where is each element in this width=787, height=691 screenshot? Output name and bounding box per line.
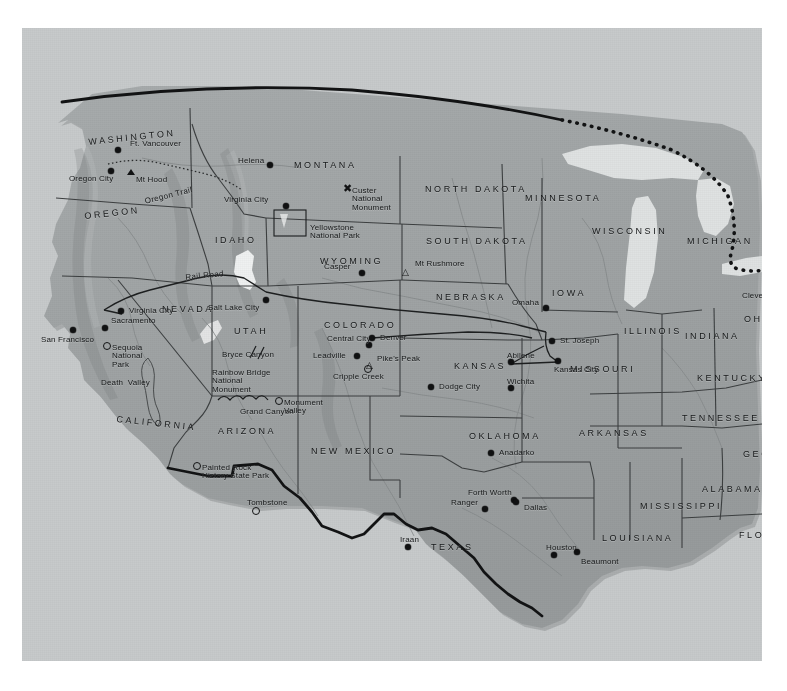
city-label-leadville: Leadville — [313, 352, 346, 360]
feature-label-monument: Monument Valley — [284, 399, 323, 416]
city-label-houston: Houston — [546, 544, 577, 552]
city-label-central-city: Central City — [327, 335, 371, 343]
city-label-sacramento: Sacramento — [111, 317, 156, 325]
city-dot-marker — [267, 162, 273, 168]
city-marker[interactable] — [513, 499, 519, 505]
state-label-michigan: MICHIGAN — [687, 237, 753, 246]
city-marker[interactable] — [549, 338, 555, 344]
feature-marker[interactable]: ✖ — [343, 185, 352, 193]
city-marker[interactable] — [482, 506, 488, 512]
city-label-iraan: Iraan — [400, 536, 419, 544]
feature-marker[interactable] — [193, 462, 201, 470]
state-label-kentucky: KENTUCKY — [697, 374, 762, 383]
city-label-wichita: Wichita — [507, 378, 534, 386]
state-label-oklahoma: OKLAHOMA — [469, 432, 541, 441]
city-dot-marker — [543, 305, 549, 311]
open-circle-marker — [275, 397, 283, 405]
city-marker[interactable] — [543, 305, 549, 311]
city-marker[interactable] — [488, 450, 494, 456]
city-marker[interactable] — [127, 169, 135, 175]
city-dot-marker — [405, 544, 411, 550]
city-label-omaha: Omaha — [512, 299, 539, 307]
city-dot-marker — [428, 384, 434, 390]
city-marker[interactable] — [369, 335, 375, 341]
city-label-mt-rushmore: Mt Rushmore — [415, 260, 465, 268]
city-dot-marker — [118, 308, 124, 314]
city-marker[interactable] — [366, 354, 373, 360]
city-label-abilene: Abilene — [507, 352, 535, 360]
feature-label-death-valley: Death Valley — [101, 379, 150, 387]
state-label-mississippi: MISSISSIPPI — [640, 502, 722, 511]
open-circle-marker — [103, 342, 111, 350]
city-marker[interactable] — [405, 544, 411, 550]
city-marker[interactable] — [551, 552, 557, 558]
city-marker[interactable] — [115, 147, 121, 153]
city-marker[interactable] — [354, 353, 360, 359]
city-label-ranger: Ranger — [451, 499, 478, 507]
city-dot-marker — [555, 358, 561, 364]
state-label-kansas: KANSAS — [454, 362, 506, 371]
state-label-alabama: ALABAMA — [702, 485, 762, 494]
city-marker[interactable] — [555, 358, 561, 364]
open-triangle-marker — [366, 354, 373, 360]
city-marker[interactable] — [574, 549, 580, 555]
city-dot-marker — [102, 325, 108, 331]
city-dot-marker — [359, 270, 365, 276]
city-label-helena: Helena — [238, 157, 264, 165]
city-dot-marker — [70, 327, 76, 333]
city-label-dallas: Dallas — [524, 504, 547, 512]
city-marker[interactable] — [252, 507, 260, 515]
city-marker[interactable] — [267, 162, 273, 168]
state-label-nebraska: NEBRASKA — [436, 293, 506, 302]
state-label-arkansas: ARKANSAS — [579, 429, 649, 438]
city-marker[interactable] — [402, 261, 409, 267]
feature-marker[interactable] — [103, 342, 111, 350]
city-label-cripple-creek: Cripple Creek — [333, 373, 384, 381]
city-dot-marker — [283, 203, 289, 209]
feature-marker[interactable] — [275, 397, 283, 405]
city-marker[interactable] — [70, 327, 76, 333]
city-marker[interactable] — [263, 297, 269, 303]
open-circle-marker — [193, 462, 201, 470]
feature-label-rainbow-bridge: Rainbow Bridge National Monument — [212, 369, 271, 394]
open-circle-marker — [252, 507, 260, 515]
feature-label-sequoia: Sequoia National Park — [112, 344, 143, 369]
city-label-virginia-city: Virginia City — [224, 196, 269, 204]
feature-label-yellowstone: Yellowstone National Park — [310, 224, 360, 241]
state-label-colorado: COLORADO — [324, 321, 396, 330]
state-label-ohio: OHIO — [744, 315, 762, 324]
state-label-tennessee: TENNESSEE — [682, 414, 760, 423]
city-label-dodge-city: Dodge City — [439, 383, 480, 391]
city-marker[interactable] — [359, 270, 365, 276]
feature-label-painted-rock: Painted Rock History State Park — [202, 464, 269, 481]
battlefield-x-marker: ✖ — [343, 185, 352, 193]
mountain-triangle-marker — [127, 169, 135, 175]
city-dot-marker — [488, 450, 494, 456]
city-marker[interactable] — [118, 308, 124, 314]
city-label-st-joseph: St. Joseph — [560, 337, 599, 345]
state-label-georgia: GEORGIA — [743, 450, 762, 459]
state-label-iowa: IOWA — [552, 289, 586, 298]
city-dot-marker — [574, 549, 580, 555]
city-label-beaumont: Beaumont — [581, 558, 619, 566]
state-label-minnesota: MINNESOTA — [525, 194, 601, 203]
state-label-indiana: INDIANA — [685, 332, 740, 341]
city-marker[interactable] — [283, 203, 289, 209]
city-label-oregon-city: Oregon City — [69, 175, 113, 183]
city-dot-marker — [549, 338, 555, 344]
state-label-texas: TEXAS — [431, 543, 474, 552]
state-label-idaho: IDAHO — [215, 236, 257, 245]
city-dot-marker — [354, 353, 360, 359]
city-dot-marker — [263, 297, 269, 303]
city-label-kansas-city: Kansas City — [554, 366, 598, 374]
map-screenshot: WASHINGTONOREGONIDAHOMONTANANORTH DAKOTA… — [0, 0, 787, 691]
city-marker[interactable] — [428, 384, 434, 390]
city-label-tombstone: Tombstone — [247, 499, 287, 507]
map-panel: WASHINGTONOREGONIDAHOMONTANANORTH DAKOTA… — [22, 28, 762, 661]
open-triangle-marker — [402, 261, 409, 267]
city-marker[interactable] — [102, 325, 108, 331]
state-label-illinois: ILLINOIS — [624, 327, 682, 336]
state-label-south-dakota: SOUTH DAKOTA — [426, 237, 528, 246]
state-label-florida: FLORIDA — [739, 531, 762, 540]
state-label-north-dakota: NORTH DAKOTA — [425, 185, 527, 194]
